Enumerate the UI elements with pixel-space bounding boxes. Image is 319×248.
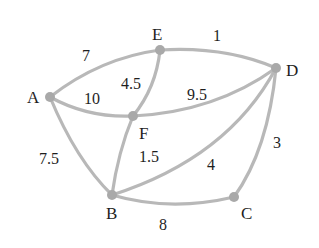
- weight-label-E-F: 4.5: [121, 75, 141, 92]
- node-E: [155, 45, 165, 55]
- node-label-E: E: [152, 25, 162, 44]
- weight-label-A-B: 7.5: [39, 150, 59, 167]
- node-label-D: D: [286, 61, 298, 80]
- node-A: [45, 92, 55, 102]
- node-label-A: A: [27, 88, 40, 107]
- graph-diagram: A E D F B C 7 1 4.5 10 9.5 7.5 1.5 4 3 8: [0, 0, 319, 248]
- weight-label-F-D: 9.5: [187, 86, 207, 103]
- node-C: [229, 192, 239, 202]
- weight-label-F-B: 1.5: [139, 148, 159, 165]
- edge-A-E: [50, 50, 160, 97]
- weight-label-B-C: 8: [159, 216, 167, 233]
- node-label-F: F: [139, 124, 148, 143]
- weight-label-A-F: 10: [84, 90, 100, 107]
- edge-D-C: [234, 68, 276, 197]
- edge-F-B: [112, 116, 133, 195]
- edge-E-D: [160, 49, 276, 68]
- node-D: [271, 63, 281, 73]
- node-F: [128, 111, 138, 121]
- edge-A-B: [50, 97, 112, 195]
- weight-label-B-D: 4: [207, 156, 215, 173]
- node-label-B: B: [106, 204, 117, 223]
- weight-label-D-C: 3: [273, 134, 281, 151]
- node-B: [107, 190, 117, 200]
- weight-label-E-D: 1: [213, 27, 221, 44]
- node-label-C: C: [241, 204, 252, 223]
- weight-label-A-E: 7: [82, 47, 90, 64]
- edge-B-C: [112, 195, 234, 204]
